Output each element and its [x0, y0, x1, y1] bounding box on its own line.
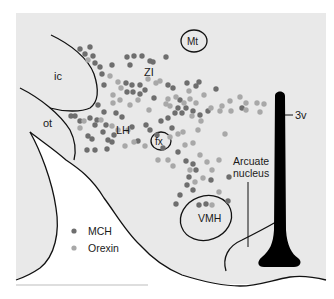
orexin-dot: [167, 103, 172, 108]
mch-dot: [113, 110, 118, 115]
mch-dot: [119, 114, 124, 119]
mch-dot: [137, 82, 142, 87]
orexin-dot: [208, 105, 213, 110]
mch-dot: [100, 129, 105, 134]
mch-dot: [99, 71, 104, 76]
orexin-dot: [98, 117, 103, 122]
mch-dot: [196, 202, 201, 207]
mch-dot: [124, 89, 129, 94]
mch-dot: [101, 82, 106, 87]
orexin-dot: [131, 139, 136, 144]
mch-dot: [203, 201, 208, 206]
mch-dot: [193, 167, 198, 172]
mch-dot: [97, 64, 102, 69]
label-arcuate-line2: nucleus: [233, 167, 269, 179]
label-ic: ic: [54, 70, 62, 82]
legend-mch-dot: [71, 228, 76, 233]
mch-dot: [92, 60, 97, 65]
mch-dot: [104, 146, 109, 151]
orexin-dot: [200, 175, 205, 180]
mch-dot: [150, 59, 155, 64]
mch-dot: [213, 86, 218, 91]
mch-dot: [87, 44, 92, 49]
mch-dot: [151, 95, 156, 100]
orexin-dot: [81, 118, 86, 123]
orexin-dot: [216, 189, 221, 194]
orexin-dot: [204, 159, 209, 164]
mch-dot: [158, 118, 163, 123]
orexin-dot: [190, 140, 195, 145]
label-lh: LH: [116, 124, 130, 136]
mch-dot: [179, 110, 184, 115]
orexin-dot: [209, 202, 214, 207]
mch-dot: [72, 113, 77, 118]
mch-dot: [139, 53, 144, 58]
mch-dot: [143, 122, 148, 127]
label-vmh: VMH: [198, 212, 221, 224]
mch-dot: [193, 83, 198, 88]
mch-dot: [163, 54, 168, 59]
orexin-dot: [155, 157, 160, 162]
mch-dot: [186, 174, 191, 179]
mch-dot: [87, 115, 92, 120]
mch-dot: [173, 201, 178, 206]
mch-dot: [175, 105, 180, 110]
orexin-dot: [142, 143, 147, 148]
orexin-dot: [254, 100, 259, 105]
mch-dot: [169, 125, 174, 130]
label-fx: fx: [155, 136, 163, 147]
orexin-dot: [175, 131, 180, 136]
orexin-dot: [217, 108, 222, 113]
orexin-dot: [165, 96, 170, 101]
orexin-dot: [181, 100, 186, 105]
orexin-dot: [85, 57, 90, 62]
mch-dot: [129, 82, 134, 87]
orexin-dot: [186, 88, 191, 93]
orexin-dot: [216, 157, 221, 162]
orexin-dot: [189, 113, 194, 118]
mch-dot: [190, 161, 195, 166]
mch-dot: [109, 62, 114, 67]
orexin-dot: [167, 134, 172, 139]
label-mt: Mt: [187, 36, 198, 47]
mch-dot: [175, 149, 180, 154]
label-zi: ZI: [144, 66, 154, 78]
mch-dot: [89, 136, 94, 141]
orexin-dot: [243, 100, 248, 105]
orexin-dot: [219, 103, 224, 108]
mch-dot: [130, 89, 135, 94]
mch-dot: [77, 46, 82, 51]
mch-dot: [177, 192, 182, 197]
orexin-dot: [187, 167, 192, 172]
mch-dot: [142, 87, 147, 92]
orexin-dot: [227, 98, 232, 103]
orexin-dot: [193, 100, 198, 105]
orexin-dot: [201, 92, 206, 97]
mch-dot: [190, 108, 195, 113]
mch-dot: [92, 122, 97, 127]
mch-dot: [165, 82, 170, 87]
mch-dot: [84, 147, 89, 152]
mch-dot: [101, 109, 106, 114]
mch-dot: [170, 85, 175, 90]
orexin-dot: [222, 131, 227, 136]
mch-dot: [90, 53, 95, 58]
orexin-dot: [261, 101, 266, 106]
orexin-dot: [127, 102, 132, 107]
orexin-dot: [165, 157, 170, 162]
mch-dot: [165, 115, 170, 120]
mch-dot: [124, 54, 129, 59]
orexin-dot: [107, 73, 112, 78]
mch-dot: [197, 112, 202, 117]
orexin-dot: [135, 97, 140, 102]
label-arcuate-line1: Arcuate: [233, 155, 269, 167]
mch-dot: [131, 53, 136, 58]
orexin-dot: [110, 100, 115, 105]
orexin-dot: [118, 85, 123, 90]
mch-dot: [127, 62, 132, 67]
orexin-dot: [182, 142, 187, 147]
orexin-dot: [122, 143, 127, 148]
mch-dot: [92, 147, 97, 152]
mch-dot: [123, 80, 128, 85]
orexin-dot: [192, 179, 197, 184]
